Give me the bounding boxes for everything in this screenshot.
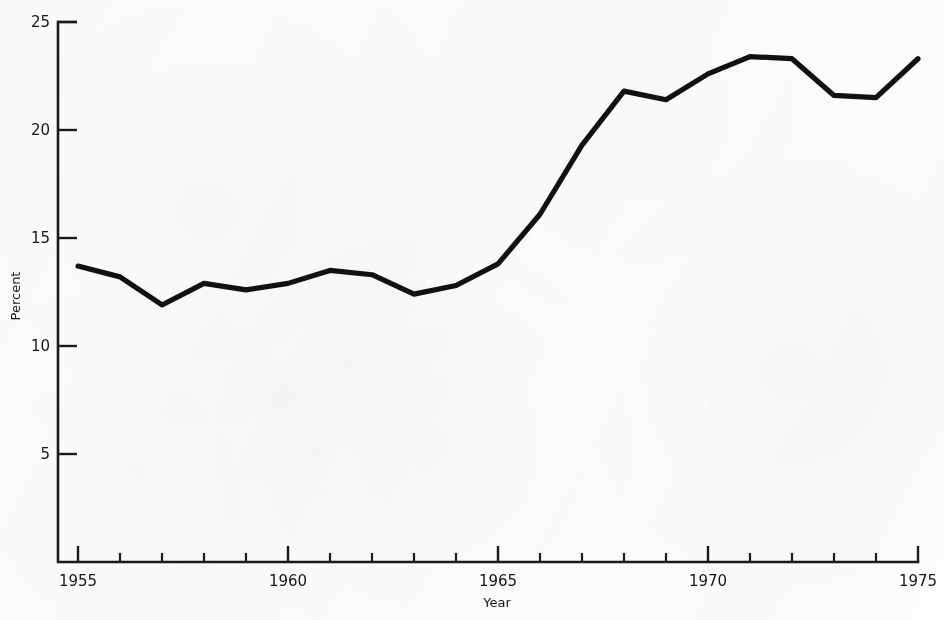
y-axis-tick-labels: 510152025 xyxy=(31,13,50,463)
y-tick-label: 5 xyxy=(40,445,50,463)
x-axis-title: Year xyxy=(482,595,511,610)
line-chart-plot: 510152025 19551960196519701975 Percent Y… xyxy=(0,0,944,620)
data-series-line-0 xyxy=(78,57,918,305)
y-tick-label: 10 xyxy=(31,337,50,355)
y-axis-title: Percent xyxy=(8,272,23,321)
y-tick-label: 25 xyxy=(31,13,50,31)
x-tick-label: 1965 xyxy=(479,572,517,590)
chart-figure: 510152025 19551960196519701975 Percent Y… xyxy=(0,0,944,620)
x-tick-label: 1955 xyxy=(59,572,97,590)
data-series-group xyxy=(78,57,918,305)
y-tick-label: 20 xyxy=(31,121,50,139)
x-axis-tick-labels: 19551960196519701975 xyxy=(59,572,937,590)
x-tick-label: 1970 xyxy=(689,572,727,590)
x-tick-label: 1960 xyxy=(269,572,307,590)
x-tick-label: 1975 xyxy=(899,572,937,590)
y-tick-label: 15 xyxy=(31,229,50,247)
